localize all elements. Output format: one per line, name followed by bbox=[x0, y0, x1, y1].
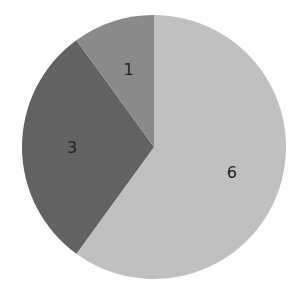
slice-label-6: 6 bbox=[227, 163, 237, 182]
pie-slices bbox=[22, 15, 286, 279]
slice-label-1: 1 bbox=[124, 60, 134, 79]
slice-label-3: 3 bbox=[67, 138, 77, 157]
pie-chart: 631 bbox=[0, 0, 304, 292]
